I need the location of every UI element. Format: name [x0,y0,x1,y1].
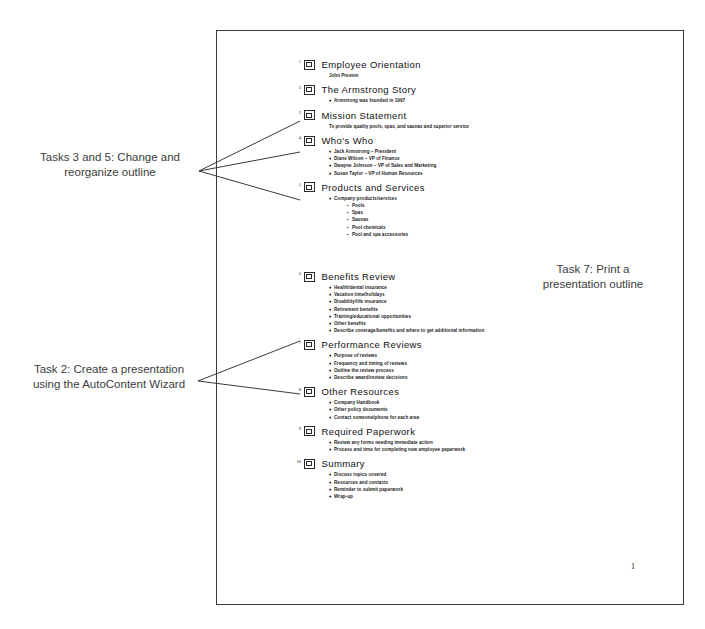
slide-icon[interactable] [304,426,315,436]
outline-bullet: ♦Company Handbook [329,399,621,406]
slide-title: Who's Who [322,135,374,146]
outline-bullet: ♦Armstrong was founded in 1997 [329,97,621,104]
outline-bullet-text: Pool chemicals [352,225,385,230]
outline-bullet-text: Describe award/review decisions [334,375,408,380]
outline-bullet-text: Diane Wilson – VP of Finance [334,156,400,161]
outline-bullet: ♦Contact someone/phone for each area [329,414,621,421]
slide-icon[interactable] [304,60,315,70]
outline-bullet-text: Purpose of reviews [334,353,377,358]
outline-bullet: ♦Vacation time/holidays [329,291,621,298]
outline-slide-row[interactable]: 10Summary♦Discuss topics covered♦Resourc… [291,456,621,500]
outline-slide-row[interactable]: 5Products and Services♦Company products/… [291,180,621,238]
outline-slide-row[interactable]: 4Who's Who♦Jack Armstrong – President♦Di… [291,133,621,177]
outline-bullet-text: Process and time for completing new empl… [334,447,465,452]
outline-bullet-text: Health/dental insurance [334,285,387,290]
outline-bullet: ♦Wrap-up [329,493,621,500]
outline-bullet: ♦Company products/services [329,195,621,202]
outline-bullet: ▪Pool chemicals [347,224,621,231]
outline-bullet-text: Disability/life insurance [334,299,387,304]
slide-title: Performance Reviews [322,339,423,350]
slide-title: Other Resources [322,386,400,397]
outline-bullet-text: Discuss topics covered [334,472,386,477]
slide-subtitle: John Preston [329,72,621,79]
outline-bullet: ♦Resources and contacts [329,479,621,486]
outline-bullet-text: Frequency and timing of reviews [334,361,407,366]
outline-slide-row[interactable]: 2The Armstrong Story♦Armstrong was found… [291,82,621,104]
slide-header: 5Products and Services [291,180,621,195]
outline-bullet: ▪Saunas [347,216,621,223]
slide-icon[interactable] [304,459,315,469]
outline-bullet-text: Describe coverage/benefits and where to … [334,328,484,333]
annotation-task-2: Task 2: Create a presentation using the … [4,362,214,392]
outline-slide-row[interactable]: 9Required Paperwork♦Review any forms nee… [291,424,621,453]
outline-bullet-text: Saunas [352,217,368,222]
slide-icon[interactable] [304,182,315,192]
outline-slide-row[interactable]: 7Performance Reviews♦Purpose of reviews♦… [291,337,621,381]
outline-slide-row[interactable]: 1Employee OrientationJohn Preston [291,57,621,79]
outline-bullet: ♦Other benefits [329,320,621,327]
slide-header: 4Who's Who [291,133,621,148]
outline-bullet: ♦Frequency and timing of reviews [329,360,621,367]
slide-number: 6 [291,272,301,281]
outline-bullet-text: Company Handbook [334,400,379,405]
slide-icon[interactable] [304,136,315,146]
outline-bullet-text: Outline the review process [334,368,394,373]
slide-header: 2The Armstrong Story [291,82,621,97]
outline-bullet-text: Other policy documents [334,407,388,412]
outline-bullet-text: Review any forms needing immediate actio… [334,440,433,445]
outline-bullet-text: Wrap-up [334,494,353,499]
annotation-task-7: Task 7: Print a presentation outline [498,262,688,292]
outline-bullet-text: Vacation time/holidays [334,292,385,297]
slide-number: 7 [291,341,301,350]
slide-number: 3 [291,111,301,120]
outline-bullet-text: Contact someone/phone for each area [334,415,419,420]
outline-bullet: ♦Purpose of reviews [329,352,621,359]
slide-number: 8 [291,388,301,397]
slide-header: 7Performance Reviews [291,337,621,352]
outline-bullet: ♦Reminder to submit paperwork [329,486,621,493]
outline-slide-row[interactable]: 8Other Resources♦Company Handbook♦Other … [291,384,621,421]
outline-bullet-text: Company products/services [334,196,397,201]
printed-page-sheet: 1Employee OrientationJohn Preston2The Ar… [216,30,684,605]
outline-bullet-text: Armstrong was founded in 1997 [334,98,405,103]
slide-title: Products and Services [322,182,425,193]
outline-bullet-text: Dwayne Johnson – VP of Sales and Marketi… [334,163,436,168]
outline-bullet: ♦Jack Armstrong – President [329,148,621,155]
outline-bullet: ♦Training/educational opportunities [329,313,621,320]
outline-bullet-text: Other benefits [334,321,366,326]
outline-bullet-text: Resources and contacts [334,480,388,485]
outline-bullet-text: Spas [352,210,363,215]
slide-number: 10 [291,460,301,469]
outline-bullet-text: Jack Armstrong – President [334,149,396,154]
slide-title: Employee Orientation [322,59,421,70]
slide-number: 4 [291,136,301,145]
outline-slide-row[interactable]: 3Mission StatementTo provide quality poo… [291,108,621,130]
slide-title: Required Paperwork [322,426,416,437]
outline-bullet: ♦Susan Taylor – VP of Human Resources [329,170,621,177]
outline-bullet-text: Pool and spa accessories [352,232,408,237]
slide-number: 9 [291,427,301,436]
outline-bullet: ♦Outline the review process [329,367,621,374]
outline-bullet-text: Reminder to submit paperwork [334,487,403,492]
annotation-tasks-3-and-5: Tasks 3 and 5: Change and reorganize out… [14,150,206,180]
outline-bullet: ♦Other policy documents [329,406,621,413]
outline-bullet: ▪Pools [347,202,621,209]
outline-bullet-text: Pools [352,203,365,208]
slide-icon[interactable] [304,110,315,120]
outline-bullet: ♦Disability/life insurance [329,298,621,305]
outline-bullet-text: Susan Taylor – VP of Human Resources [334,171,423,176]
outline-bullet-text: Retirement benefits [334,307,378,312]
slide-icon[interactable] [304,85,315,95]
outline-bullet: ♦Describe award/review decisions [329,374,621,381]
slide-icon[interactable] [304,387,315,397]
slide-header: 1Employee Orientation [291,57,621,72]
slide-title: The Armstrong Story [322,84,417,95]
slide-title: Benefits Review [322,271,396,282]
slide-number: 1 [291,60,301,69]
outline-bullet: ♦Process and time for completing new emp… [329,446,621,453]
outline-bullet: ♦Dwayne Johnson – VP of Sales and Market… [329,162,621,169]
outline-bullet-text: Training/educational opportunities [334,314,411,319]
slide-icon[interactable] [304,340,315,350]
slide-icon[interactable] [304,272,315,282]
slide-header: 10Summary [291,456,621,471]
